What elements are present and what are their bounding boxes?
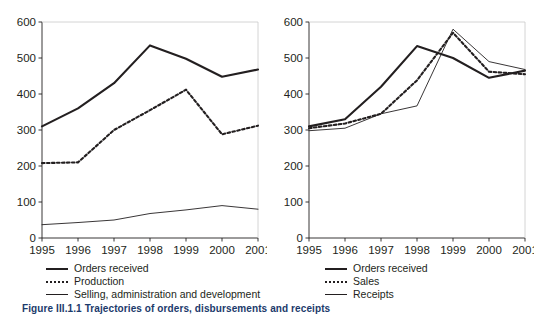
svg-text:1999: 1999: [173, 244, 199, 256]
svg-text:0: 0: [297, 232, 303, 244]
legend-label: Orders received: [353, 263, 428, 274]
charts-row: 0100200300400500600199519961997199819992…: [0, 0, 534, 300]
legend-swatch-thick-solid-icon: [46, 263, 68, 273]
svg-text:2001: 2001: [512, 244, 534, 256]
svg-text:100: 100: [284, 196, 303, 208]
legend-label: Sales: [353, 276, 379, 287]
svg-text:500: 500: [17, 52, 36, 64]
svg-text:400: 400: [17, 88, 36, 100]
legend-item-sales: Sales: [325, 275, 534, 287]
svg-text:1998: 1998: [404, 244, 430, 256]
svg-text:2000: 2000: [209, 244, 235, 256]
svg-text:2000: 2000: [476, 244, 502, 256]
svg-text:300: 300: [17, 124, 36, 136]
legend-swatch-thin-solid-icon: [325, 289, 347, 299]
svg-text:2001: 2001: [245, 244, 267, 256]
svg-text:200: 200: [284, 160, 303, 172]
svg-text:1997: 1997: [101, 244, 127, 256]
left-chart-legend: Orders received Production Selling, admi…: [46, 262, 266, 301]
svg-text:200: 200: [17, 160, 36, 172]
legend-item-orders-received: Orders received: [325, 262, 534, 274]
left-chart-plot: 0100200300400500600199519961997199819992…: [0, 0, 267, 262]
svg-text:1996: 1996: [332, 244, 358, 256]
svg-text:1999: 1999: [440, 244, 466, 256]
legend-item-selling-administration-development: Selling, administration and development: [46, 288, 266, 300]
legend-item-production: Production: [46, 275, 266, 287]
right-chart-plot: 0100200300400500600199519961997199819992…: [267, 0, 534, 262]
svg-text:1995: 1995: [296, 244, 322, 256]
legend-swatch-thin-solid-icon: [46, 289, 68, 299]
legend-item-orders-received: Orders received: [46, 262, 266, 274]
svg-text:1997: 1997: [368, 244, 394, 256]
svg-text:400: 400: [284, 88, 303, 100]
right-chart-panel: 0100200300400500600199519961997199819992…: [267, 0, 534, 300]
legend-label: Selling, administration and development: [74, 289, 260, 300]
svg-text:500: 500: [284, 52, 303, 64]
legend-label: Receipts: [353, 289, 394, 300]
figure-caption: Figure III.1.1 Trajectories of orders, d…: [22, 303, 330, 314]
left-chart-panel: 0100200300400500600199519961997199819992…: [0, 0, 267, 300]
svg-text:1998: 1998: [137, 244, 163, 256]
svg-text:1996: 1996: [65, 244, 91, 256]
right-chart-legend: Orders received Sales Receipts: [325, 262, 534, 301]
legend-swatch-dotted-icon: [46, 276, 68, 286]
svg-text:300: 300: [284, 124, 303, 136]
legend-swatch-dotted-icon: [325, 276, 347, 286]
legend-swatch-thick-solid-icon: [325, 263, 347, 273]
svg-text:600: 600: [17, 16, 36, 28]
legend-label: Orders received: [74, 263, 149, 274]
svg-text:0: 0: [30, 232, 36, 244]
figure-container: 0100200300400500600199519961997199819992…: [0, 0, 534, 315]
svg-text:600: 600: [284, 16, 303, 28]
svg-text:100: 100: [17, 196, 36, 208]
svg-text:1995: 1995: [29, 244, 55, 256]
legend-item-receipts: Receipts: [325, 288, 534, 300]
legend-label: Production: [74, 276, 124, 287]
